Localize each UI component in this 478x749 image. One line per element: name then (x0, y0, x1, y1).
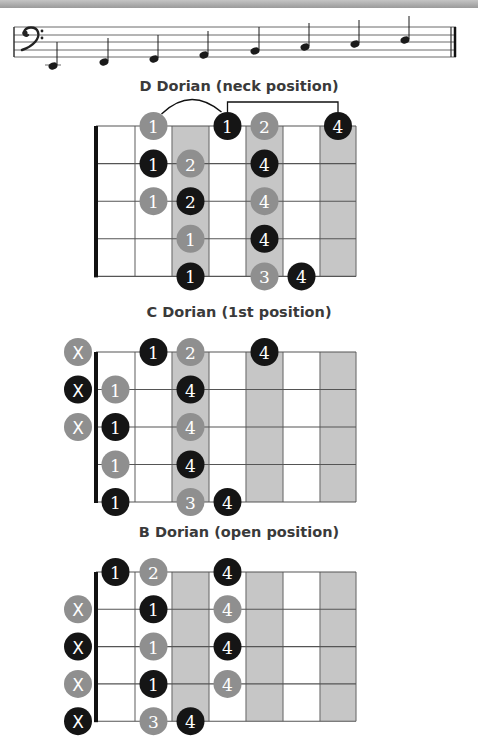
muted-string-marker: X (64, 376, 92, 404)
nut (94, 352, 98, 503)
svg-text:4: 4 (259, 230, 270, 250)
svg-text:4: 4 (259, 343, 270, 363)
finger-dot: 1 (102, 451, 130, 479)
bass-clef-icon (22, 28, 43, 51)
quarter-note (350, 20, 361, 49)
svg-text:4: 4 (296, 267, 307, 287)
svg-text:4: 4 (333, 117, 344, 137)
finger-dot: 1 (140, 633, 168, 661)
quarter-note (400, 16, 411, 45)
svg-text:X: X (72, 675, 84, 695)
svg-text:X: X (72, 381, 84, 401)
finger-dot: 4 (251, 338, 279, 366)
svg-text:4: 4 (185, 712, 196, 732)
finger-dot: 4 (177, 707, 205, 735)
finger-dot: 1 (177, 225, 205, 253)
diagram-title-c-dorian: C Dorian (1st position) (0, 304, 478, 320)
finger-dot: 4 (177, 413, 205, 441)
quarter-note (45, 42, 61, 71)
diagram-title-d-dorian: D Dorian (neck position) (0, 78, 478, 94)
finger-dot: 2 (177, 338, 205, 366)
stretch-bracket (228, 102, 339, 112)
svg-text:X: X (72, 638, 84, 658)
finger-dot: 1 (140, 150, 168, 178)
svg-text:1: 1 (148, 600, 159, 620)
svg-text:4: 4 (185, 381, 196, 401)
finger-dot: 3 (140, 707, 168, 735)
svg-text:2: 2 (148, 563, 159, 583)
svg-text:1: 1 (110, 381, 121, 401)
finger-dot: 4 (251, 187, 279, 215)
finger-dot: 4 (214, 670, 242, 698)
svg-text:4: 4 (222, 675, 233, 695)
finger-dot: 4 (214, 488, 242, 516)
svg-text:4: 4 (185, 456, 196, 476)
finger-dot: 4 (251, 225, 279, 253)
finger-dot: 1 (140, 112, 168, 140)
svg-text:1: 1 (148, 192, 159, 212)
finger-dot: 2 (177, 150, 205, 178)
svg-text:4: 4 (222, 638, 233, 658)
svg-text:1: 1 (148, 155, 159, 175)
svg-text:1: 1 (148, 675, 159, 695)
svg-text:1: 1 (110, 493, 121, 513)
finger-dot: 1 (102, 488, 130, 516)
svg-text:2: 2 (259, 117, 270, 137)
svg-text:4: 4 (222, 563, 233, 583)
svg-text:2: 2 (185, 155, 196, 175)
nut (94, 572, 98, 722)
muted-string-marker: X (64, 595, 92, 623)
muted-string-marker: X (64, 413, 92, 441)
finger-dot: 1 (140, 187, 168, 215)
svg-text:3: 3 (185, 493, 196, 513)
note-group (45, 16, 410, 71)
quarter-note (250, 27, 261, 56)
finger-dot: 1 (140, 595, 168, 623)
finger-dot: 3 (177, 488, 205, 516)
finger-dot: 4 (324, 112, 352, 140)
svg-text:2: 2 (185, 192, 196, 212)
svg-text:1: 1 (148, 638, 159, 658)
finger-dot: 4 (214, 595, 242, 623)
finger-dot: 1 (140, 670, 168, 698)
muted-string-marker: X (64, 633, 92, 661)
diagram-title-b-dorian: B Dorian (open position) (0, 524, 478, 540)
svg-text:1: 1 (110, 563, 121, 583)
svg-text:1: 1 (185, 230, 196, 250)
finger-dot: 4 (177, 376, 205, 404)
fretboard-b-dorian: 12414141434XXXX (64, 558, 356, 735)
svg-text:4: 4 (259, 155, 270, 175)
svg-text:1: 1 (222, 117, 233, 137)
finger-dot: 4 (288, 262, 316, 290)
muted-string-marker: X (64, 338, 92, 366)
finger-dot: 4 (177, 451, 205, 479)
finger-dot: 2 (177, 187, 205, 215)
svg-text:4: 4 (222, 600, 233, 620)
muted-string-marker: X (64, 707, 92, 735)
fretboard-c-dorian: 124141414134XXX (64, 338, 356, 516)
svg-text:1: 1 (148, 117, 159, 137)
svg-text:1: 1 (110, 418, 121, 438)
muted-string-marker: X (64, 670, 92, 698)
svg-text:3: 3 (148, 712, 159, 732)
svg-text:X: X (72, 712, 84, 732)
svg-text:1: 1 (148, 343, 159, 363)
svg-text:X: X (72, 418, 84, 438)
finger-dot: 4 (214, 633, 242, 661)
svg-text:X: X (72, 343, 84, 363)
fretboard-d-dorian: 112412412414134 (94, 99, 356, 290)
finger-dot: 1 (102, 413, 130, 441)
svg-text:4: 4 (259, 192, 270, 212)
nut (94, 126, 98, 277)
svg-text:2: 2 (185, 343, 196, 363)
finger-dot: 4 (251, 150, 279, 178)
svg-text:1: 1 (110, 456, 121, 476)
svg-text:4: 4 (185, 418, 196, 438)
finger-dot: 1 (140, 338, 168, 366)
finger-dot: 4 (214, 558, 242, 586)
fretboard-layer: 112412412414134124141414134XXX1241414143… (0, 0, 478, 749)
bass-staff (0, 0, 478, 80)
svg-text:1: 1 (185, 267, 196, 287)
finger-dot: 1 (214, 112, 242, 140)
finger-dot: 2 (251, 112, 279, 140)
